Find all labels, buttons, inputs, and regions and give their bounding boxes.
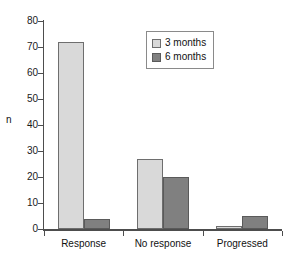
y-axis-tick — [38, 125, 43, 126]
legend-item-label: 6 months — [165, 52, 206, 62]
y-axis-tick — [38, 99, 43, 100]
x-axis-category-label: Response — [44, 238, 123, 250]
bar — [163, 177, 189, 229]
y-axis-tick — [38, 21, 43, 22]
bar — [58, 42, 84, 229]
bar — [216, 226, 242, 229]
bar — [84, 219, 110, 229]
y-axis-tick-label: 0 — [0, 224, 38, 234]
bar — [137, 159, 163, 229]
y-axis-tick — [38, 177, 43, 178]
x-axis-line — [43, 229, 282, 231]
bar-chart: n 01020304050607080 ResponseNo responseP… — [0, 0, 292, 256]
y-axis-tick-label: 20 — [0, 172, 38, 182]
x-axis-category-label: No response — [123, 238, 202, 250]
y-axis-tick-label: 40 — [0, 120, 38, 130]
legend-swatch-icon — [152, 53, 161, 62]
y-axis-tick-label: 50 — [0, 94, 38, 104]
x-axis-category-label: Progressed — [203, 238, 282, 250]
x-axis-tick — [44, 231, 45, 236]
legend-item[interactable]: 6 months — [152, 50, 206, 64]
y-axis-tick — [38, 229, 43, 230]
y-axis-tick — [38, 151, 43, 152]
bar — [242, 216, 268, 229]
legend-item[interactable]: 3 months — [152, 36, 206, 50]
y-axis-tick-label: 70 — [0, 42, 38, 52]
legend-item-label: 3 months — [165, 38, 206, 48]
y-axis-tick-label: 80 — [0, 16, 38, 26]
y-axis-tick — [38, 47, 43, 48]
legend-swatch-icon — [152, 39, 161, 48]
y-axis-tick-label: 60 — [0, 68, 38, 78]
y-axis-tick — [38, 73, 43, 74]
y-axis-tick-label: 30 — [0, 146, 38, 156]
x-axis-tick — [203, 231, 204, 236]
y-axis-tick — [38, 203, 43, 204]
y-axis-tick-label: 10 — [0, 198, 38, 208]
x-axis-tick — [282, 231, 283, 236]
x-axis-tick — [123, 231, 124, 236]
legend: 3 months 6 months — [146, 31, 214, 69]
